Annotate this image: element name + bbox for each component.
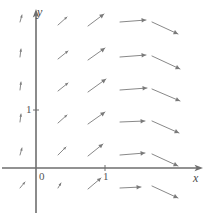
field-arrow-head bbox=[141, 53, 146, 58]
field-arrow-shaft bbox=[152, 56, 180, 69]
field-arrow-head bbox=[140, 151, 145, 156]
field-arrow bbox=[19, 114, 22, 122]
field-arrow bbox=[58, 51, 68, 59]
field-arrow-head bbox=[136, 185, 141, 190]
y-tick-label-1: 1 bbox=[26, 104, 32, 115]
field-arrow bbox=[20, 148, 23, 155]
field-arrow bbox=[58, 183, 61, 188]
field-arrow bbox=[88, 178, 101, 189]
x-axis-label: x bbox=[193, 172, 198, 184]
field-arrow bbox=[58, 17, 67, 25]
field-arrow-head bbox=[100, 112, 105, 116]
field-arrow-head bbox=[101, 79, 106, 83]
origin-label: 0 bbox=[39, 171, 45, 182]
field-arrow bbox=[120, 185, 141, 190]
field-arrow bbox=[152, 154, 178, 166]
field-arrow bbox=[20, 182, 25, 188]
field-arrow bbox=[88, 112, 105, 124]
field-arrow bbox=[88, 79, 106, 92]
field-arrow-head bbox=[142, 86, 147, 91]
field-arrow bbox=[19, 49, 22, 57]
axes-group bbox=[2, 9, 203, 213]
field-arrow bbox=[88, 14, 104, 26]
field-arrow bbox=[58, 147, 66, 155]
field-arrow bbox=[88, 48, 105, 60]
field-arrow bbox=[58, 83, 68, 91]
field-arrow bbox=[58, 115, 67, 123]
field-arrow bbox=[20, 15, 23, 22]
field-arrow bbox=[120, 53, 146, 58]
slope-field-plot: y x 0 1 1 bbox=[0, 0, 207, 214]
field-arrow bbox=[19, 82, 22, 90]
field-arrow bbox=[152, 121, 179, 133]
field-arrow bbox=[88, 144, 103, 156]
field-arrow bbox=[152, 89, 180, 101]
field-arrow-shaft bbox=[152, 121, 179, 133]
field-arrow-head bbox=[99, 14, 104, 18]
field-arrow-head bbox=[141, 119, 145, 124]
field-arrow bbox=[152, 22, 178, 34]
field-arrow-head bbox=[141, 18, 146, 23]
field-arrow bbox=[120, 18, 146, 23]
field-arrow-head bbox=[100, 48, 105, 52]
field-arrow bbox=[152, 186, 178, 198]
x-tick-label-1: 1 bbox=[103, 171, 109, 182]
y-axis-label: y bbox=[37, 6, 42, 18]
field-arrow-shaft bbox=[152, 89, 180, 101]
field-arrow bbox=[120, 151, 145, 156]
field-arrow bbox=[152, 56, 180, 69]
field-arrow bbox=[120, 86, 147, 91]
field-arrow bbox=[120, 119, 145, 124]
